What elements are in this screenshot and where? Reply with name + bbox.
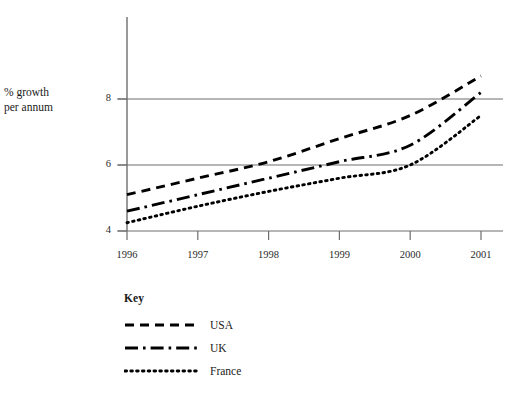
chart-legend: Key USAUKFrance — [124, 292, 344, 382]
legend-swatch-france-icon — [124, 364, 198, 378]
x-tick-label-1998: 1998 — [246, 249, 292, 260]
legend-swatch-uk-icon — [124, 341, 198, 355]
y-tick-label-8: 8 — [87, 92, 111, 103]
y-tick-label-6: 6 — [87, 158, 111, 169]
legend-item-uk: UK — [124, 336, 344, 359]
legend-item-france: France — [124, 359, 344, 382]
legend-item-usa: USA — [124, 313, 344, 336]
legend-label-usa: USA — [198, 319, 233, 331]
legend-title: Key — [124, 292, 344, 304]
x-tick-label-2001: 2001 — [458, 249, 504, 260]
x-tick-label-1997: 1997 — [175, 249, 221, 260]
legend-label-france: France — [198, 365, 241, 377]
axis-ticks — [118, 99, 481, 240]
legend-rows: USAUKFrance — [124, 313, 344, 382]
legend-swatch-usa-icon — [124, 318, 198, 332]
data-series-group — [127, 76, 481, 223]
x-tick-label-1996: 1996 — [104, 249, 150, 260]
x-tick-label-2000: 2000 — [387, 249, 433, 260]
x-tick-label-1999: 1999 — [316, 249, 362, 260]
y-tick-label-4: 4 — [87, 224, 111, 235]
chart-figure: % growth per annum 468199619971998199920… — [0, 0, 505, 393]
legend-label-uk: UK — [198, 342, 227, 354]
